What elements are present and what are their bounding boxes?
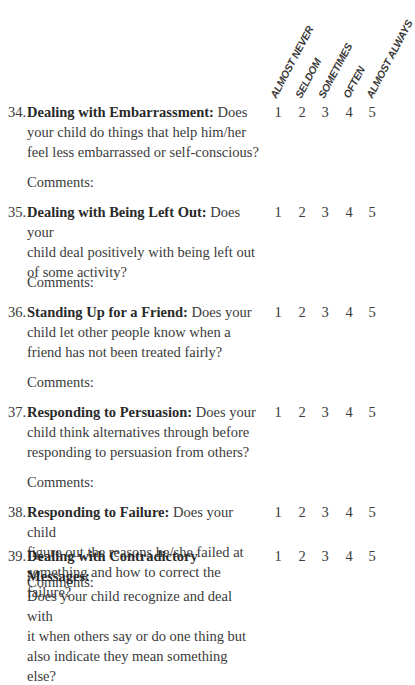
rating-scale: 1 2 3 4 5 bbox=[268, 502, 398, 522]
rating-4[interactable]: 4 bbox=[344, 102, 354, 122]
rating-2[interactable]: 2 bbox=[297, 102, 307, 122]
question-text: Dealing with Contradictory Messages: Doe… bbox=[27, 546, 259, 685]
question-number: 39. bbox=[8, 546, 26, 566]
question-number: 36. bbox=[8, 302, 26, 322]
rating-3[interactable]: 3 bbox=[320, 202, 330, 222]
rating-scale: 1 2 3 4 5 bbox=[268, 202, 398, 222]
question-title: Standing Up for a Friend: bbox=[27, 304, 188, 320]
rating-4[interactable]: 4 bbox=[344, 502, 354, 522]
question-title: Dealing with Contradictory Messages: bbox=[27, 548, 198, 584]
rating-2[interactable]: 2 bbox=[297, 502, 307, 522]
question-title: Dealing with Being Left Out: bbox=[27, 204, 207, 220]
rating-3[interactable]: 3 bbox=[320, 302, 330, 322]
rating-3[interactable]: 3 bbox=[320, 102, 330, 122]
rating-4[interactable]: 4 bbox=[344, 402, 354, 422]
question-title: Dealing with Embarrassment: bbox=[27, 104, 214, 120]
rating-2[interactable]: 2 bbox=[297, 402, 307, 422]
question-text: Dealing with Being Left Out: Does your c… bbox=[27, 202, 259, 282]
question-number: 37. bbox=[8, 402, 26, 422]
question-number: 38. bbox=[8, 502, 26, 522]
rating-5[interactable]: 5 bbox=[367, 102, 377, 122]
rating-3[interactable]: 3 bbox=[320, 402, 330, 422]
rating-2[interactable]: 2 bbox=[297, 302, 307, 322]
question-number: 35. bbox=[8, 202, 26, 222]
question-number: 34. bbox=[8, 102, 26, 122]
question-title: Responding to Failure: bbox=[27, 504, 169, 520]
rating-scale: 1 2 3 4 5 bbox=[268, 546, 398, 566]
question-title: Responding to Persuasion: bbox=[27, 404, 192, 420]
comments-label: Comments: bbox=[27, 472, 94, 492]
rating-scale: 1 2 3 4 5 bbox=[268, 302, 398, 322]
rating-5[interactable]: 5 bbox=[367, 546, 377, 566]
rating-5[interactable]: 5 bbox=[367, 502, 377, 522]
question-text: Dealing with Embarrassment: Does your ch… bbox=[27, 102, 259, 162]
comments-label: Comments: bbox=[27, 172, 94, 192]
rating-3[interactable]: 3 bbox=[320, 546, 330, 566]
rating-5[interactable]: 5 bbox=[367, 202, 377, 222]
rating-1[interactable]: 1 bbox=[273, 502, 283, 522]
rating-4[interactable]: 4 bbox=[344, 546, 354, 566]
comments-label: Comments: bbox=[27, 272, 94, 292]
rating-1[interactable]: 1 bbox=[273, 402, 283, 422]
rating-2[interactable]: 2 bbox=[297, 202, 307, 222]
rating-scale-header: ALMOST NEVER SELDOM SOMETIMES OFTEN ALMO… bbox=[0, 0, 410, 100]
rating-1[interactable]: 1 bbox=[273, 546, 283, 566]
rating-2[interactable]: 2 bbox=[297, 546, 307, 566]
rating-scale: 1 2 3 4 5 bbox=[268, 402, 398, 422]
rating-4[interactable]: 4 bbox=[344, 302, 354, 322]
header-almost-always: ALMOST ALWAYS bbox=[363, 18, 414, 100]
rating-1[interactable]: 1 bbox=[273, 202, 283, 222]
question-text: Responding to Persuasion: Does your chil… bbox=[27, 402, 259, 462]
rating-scale: 1 2 3 4 5 bbox=[268, 102, 398, 122]
rating-1[interactable]: 1 bbox=[273, 102, 283, 122]
question-text: Standing Up for a Friend: Does your chil… bbox=[27, 302, 259, 362]
rating-5[interactable]: 5 bbox=[367, 302, 377, 322]
rating-1[interactable]: 1 bbox=[273, 302, 283, 322]
comments-label: Comments: bbox=[27, 372, 94, 392]
rating-3[interactable]: 3 bbox=[320, 502, 330, 522]
rating-4[interactable]: 4 bbox=[344, 202, 354, 222]
rating-5[interactable]: 5 bbox=[367, 402, 377, 422]
